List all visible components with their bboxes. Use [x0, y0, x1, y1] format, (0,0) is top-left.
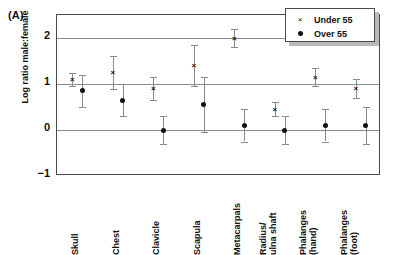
error-bar-cap	[79, 75, 86, 76]
legend-entry: Over 55	[286, 27, 374, 41]
x-axis-category-line: ulna shaft	[268, 212, 278, 255]
error-bar-cap	[272, 116, 279, 117]
legend-label: Over 55	[314, 27, 347, 41]
x-axis-category-line: Metacarpals	[232, 203, 242, 255]
error-bar-cap	[231, 47, 238, 48]
x-axis-category-label: Skull	[70, 233, 80, 255]
x-marker-icon: ×	[271, 106, 278, 113]
error-bar-cap	[312, 68, 319, 69]
error-bar-cap	[79, 107, 86, 108]
error-bar-cap	[69, 73, 76, 74]
error-bar-cap	[363, 144, 370, 145]
y-axis-tick: 1	[28, 75, 50, 87]
x-marker-icon: ×	[231, 35, 238, 42]
dot-marker-icon	[294, 27, 306, 41]
figure-panel-a: (A) Log ratio male:female 210−1 ××××××××…	[0, 0, 402, 255]
x-axis-category-label: Metacarpals	[232, 203, 242, 255]
x-axis-category-label: Scapula	[192, 220, 202, 255]
error-bar-cap	[353, 79, 360, 80]
gridline	[57, 130, 379, 131]
error-bar-cap	[322, 142, 329, 143]
dot-marker-icon	[80, 88, 85, 93]
error-bar-cap	[191, 45, 198, 46]
x-axis-category-label: Phalanges(foot)	[339, 210, 359, 255]
error-bar-cap	[110, 89, 117, 90]
x-axis-category-line: Radius/	[258, 212, 268, 255]
x-axis-category-label: Phalanges(hand)	[298, 210, 318, 255]
dot-marker-icon	[363, 123, 368, 128]
x-axis-category-line: Chest	[111, 230, 121, 255]
y-axis-tick-labels: 210−1	[26, 0, 50, 255]
error-bar-cap	[120, 84, 127, 85]
error-bar-cap	[282, 144, 289, 145]
x-marker-icon: ×	[150, 85, 157, 92]
error-bar-cap	[241, 142, 248, 143]
dot-marker-icon	[323, 123, 328, 128]
dot-marker-icon	[161, 128, 166, 133]
error-bar-cap	[231, 29, 238, 30]
x-axis-category-line: Skull	[70, 233, 80, 255]
error-bar-cap	[282, 116, 289, 117]
error-bar-cap	[241, 109, 248, 110]
error-bar-cap	[110, 56, 117, 57]
gridline	[57, 84, 379, 85]
error-bar-cap	[201, 77, 208, 78]
x-axis-category-line: Phalanges	[298, 210, 308, 255]
error-bar-cap	[160, 116, 167, 117]
x-marker-icon: ×	[109, 69, 116, 76]
legend-label: Under 55	[314, 13, 353, 27]
x-axis-category-label: Radius/ulna shaft	[258, 212, 278, 255]
x-axis-category-line: (foot)	[349, 210, 359, 255]
chart-legend: ×Under 55Over 55	[285, 8, 375, 42]
y-axis-tick: −1	[28, 167, 50, 179]
error-bar-cap	[201, 132, 208, 133]
dot-marker-icon	[242, 123, 247, 128]
x-axis-category-label: Clavicle	[151, 221, 161, 255]
error-bar-cap	[160, 144, 167, 145]
error-bar-cap	[150, 100, 157, 101]
error-bar-cap	[120, 116, 127, 117]
x-axis-category-line: Phalanges	[339, 210, 349, 255]
error-bar-cap	[322, 109, 329, 110]
y-axis-tick: 0	[28, 121, 50, 133]
error-bar-cap	[69, 86, 76, 87]
error-bar-cap	[150, 77, 157, 78]
error-bar-cap	[272, 102, 279, 103]
y-axis-tick: 2	[28, 29, 50, 41]
x-marker-icon: ×	[312, 74, 319, 81]
x-axis-category-line: Scapula	[192, 220, 202, 255]
x-marker-icon: ×	[294, 13, 306, 27]
dot-marker-icon	[282, 128, 287, 133]
dot-marker-icon	[120, 98, 125, 103]
x-marker-icon: ×	[69, 76, 76, 83]
x-axis-category-line: (hand)	[308, 210, 318, 255]
x-marker-icon: ×	[352, 85, 359, 92]
x-axis-category-line: Clavicle	[151, 221, 161, 255]
dot-marker-icon	[201, 102, 206, 107]
error-bar-cap	[353, 98, 360, 99]
legend-entry: ×Under 55	[286, 13, 374, 27]
error-bar-cap	[363, 107, 370, 108]
error-bar-cap	[312, 86, 319, 87]
x-axis-category-labels: SkullChestClavicleScapulaMetacarpalsRadi…	[56, 178, 380, 255]
x-axis-category-label: Chest	[111, 230, 121, 255]
error-bar-cap	[191, 86, 198, 87]
x-marker-icon: ×	[190, 62, 197, 69]
